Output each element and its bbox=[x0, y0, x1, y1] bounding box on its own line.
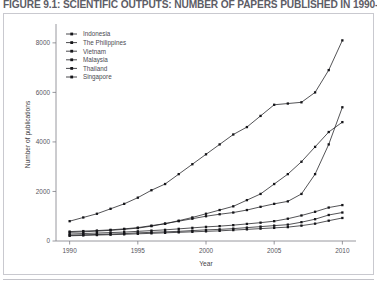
series-marker bbox=[205, 153, 207, 155]
series-marker bbox=[178, 220, 180, 222]
series-marker bbox=[328, 214, 330, 216]
series-marker bbox=[137, 197, 139, 199]
series-marker bbox=[164, 183, 166, 185]
series-marker bbox=[273, 227, 275, 229]
series-marker bbox=[191, 216, 193, 218]
series-marker bbox=[259, 222, 261, 224]
line-chart: 02000400060008000Number of publications1… bbox=[4, 14, 373, 274]
legend-item-vietnam[interactable]: Vietnam bbox=[66, 48, 106, 55]
series-marker bbox=[287, 218, 289, 220]
y-axis-tick-label: 2000 bbox=[36, 188, 51, 195]
x-axis-tick-label: 2005 bbox=[267, 247, 282, 254]
series-marker bbox=[328, 69, 330, 71]
series-marker bbox=[205, 226, 207, 228]
x-axis-title: Year bbox=[199, 260, 213, 267]
series-marker bbox=[68, 220, 70, 222]
x-axis-tick-label: 2010 bbox=[335, 247, 350, 254]
legend-item-thailand[interactable]: Thailand bbox=[66, 65, 108, 72]
series-marker bbox=[314, 91, 316, 93]
legend-label: Thailand bbox=[83, 65, 108, 72]
series-marker bbox=[273, 220, 275, 222]
legend-marker bbox=[70, 41, 73, 44]
series-marker bbox=[232, 211, 234, 213]
series-marker bbox=[246, 126, 248, 128]
y-axis-tick-label: 8000 bbox=[36, 39, 51, 46]
series-marker bbox=[246, 228, 248, 230]
legend-item-singapore[interactable]: Singapore bbox=[66, 73, 112, 81]
series-marker bbox=[341, 121, 343, 123]
legend-item-indonesia[interactable]: Indonesia bbox=[66, 30, 111, 37]
series-marker bbox=[232, 205, 234, 207]
series-marker bbox=[273, 224, 275, 226]
series-marker bbox=[300, 193, 302, 195]
series-marker bbox=[246, 223, 248, 225]
series-marker bbox=[218, 225, 220, 227]
chart-panel: 02000400060008000Number of publications1… bbox=[3, 13, 374, 275]
series-marker bbox=[259, 193, 261, 195]
series-marker bbox=[314, 211, 316, 213]
series-marker bbox=[341, 106, 343, 108]
legend-marker bbox=[70, 67, 73, 70]
series-marker bbox=[341, 211, 343, 213]
series-marker bbox=[150, 229, 152, 231]
series-marker bbox=[109, 234, 111, 236]
series-marker bbox=[328, 131, 330, 133]
series-marker bbox=[300, 161, 302, 163]
series-marker bbox=[96, 234, 98, 236]
series-marker bbox=[164, 223, 166, 225]
series-marker bbox=[178, 173, 180, 175]
legend-marker bbox=[70, 76, 73, 79]
series-marker bbox=[96, 213, 98, 215]
series-marker bbox=[246, 209, 248, 211]
series-marker bbox=[314, 218, 316, 220]
figure-caption: FIGURE 9.1: SCIENTIFIC OUTPUTS: NUMBER O… bbox=[3, 0, 377, 11]
series-marker bbox=[137, 233, 139, 235]
y-axis-tick-label: 6000 bbox=[36, 89, 51, 96]
series-marker bbox=[300, 221, 302, 223]
series-marker bbox=[150, 189, 152, 191]
legend-label: The Philippines bbox=[83, 39, 126, 47]
series-marker bbox=[96, 232, 98, 234]
series-marker bbox=[300, 101, 302, 103]
x-axis-tick-label: 1990 bbox=[63, 247, 78, 254]
series-marker bbox=[328, 220, 330, 222]
x-axis-tick-label: 2000 bbox=[199, 247, 214, 254]
series-marker bbox=[137, 227, 139, 229]
series-marker bbox=[82, 231, 84, 233]
series-marker bbox=[218, 143, 220, 145]
series-marker bbox=[259, 227, 261, 229]
series-marker bbox=[259, 206, 261, 208]
series-marker bbox=[123, 228, 125, 230]
series-marker bbox=[328, 206, 330, 208]
series-marker bbox=[123, 203, 125, 205]
figure-page: FIGURE 9.1: SCIENTIFIC OUTPUTS: NUMBER O… bbox=[0, 0, 377, 285]
series-marker bbox=[287, 200, 289, 202]
series-marker bbox=[164, 229, 166, 231]
page-divider bbox=[3, 279, 374, 280]
series-marker bbox=[232, 229, 234, 231]
series-marker bbox=[232, 224, 234, 226]
series-marker bbox=[123, 233, 125, 235]
series-marker bbox=[300, 224, 302, 226]
y-axis-tick-label: 0 bbox=[46, 237, 50, 244]
series-marker bbox=[150, 225, 152, 227]
series-marker bbox=[300, 214, 302, 216]
series-marker bbox=[123, 231, 125, 233]
series-marker bbox=[109, 231, 111, 233]
legend-item-the-philippines[interactable]: The Philippines bbox=[66, 39, 126, 47]
series-marker bbox=[341, 204, 343, 206]
y-axis-title: Number of publications bbox=[24, 100, 32, 168]
legend-label: Indonesia bbox=[83, 30, 111, 37]
legend-item-malaysia[interactable]: Malaysia bbox=[66, 56, 108, 64]
series-marker bbox=[191, 231, 193, 233]
series-marker bbox=[191, 227, 193, 229]
series-marker bbox=[218, 230, 220, 232]
series-marker bbox=[68, 231, 70, 233]
legend-marker bbox=[70, 33, 73, 36]
series-marker bbox=[314, 173, 316, 175]
series-marker bbox=[246, 199, 248, 201]
series-marker bbox=[341, 217, 343, 219]
series-marker bbox=[205, 215, 207, 217]
series-marker bbox=[314, 223, 316, 225]
series-marker bbox=[109, 208, 111, 210]
